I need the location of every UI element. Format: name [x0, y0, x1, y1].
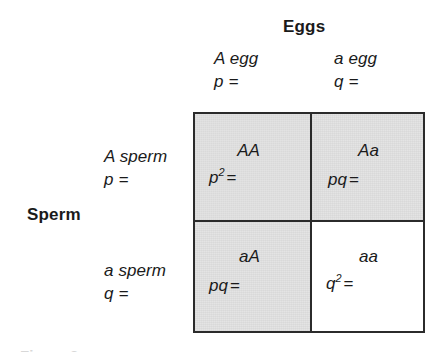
- row-header-gamete-A: A sperm: [104, 148, 167, 165]
- frequency-label-AA: p2=: [209, 166, 237, 188]
- genotype-label-AA: AA: [195, 141, 310, 161]
- punnett-square-grid: AA p2= Aa pq= aA pq= aa q2=: [193, 112, 425, 333]
- eggs-axis-title: Eggs: [283, 18, 325, 35]
- column-header-gamete-a: a egg: [334, 50, 377, 67]
- row-header-gamete-a: a sperm: [104, 262, 166, 279]
- frequency-exponent-AA: 2: [218, 166, 224, 178]
- frequency-base-aA: pq: [209, 276, 228, 295]
- frequency-base-Aa: pq: [328, 170, 347, 189]
- frequency-label-Aa: pq=: [328, 168, 359, 190]
- column-header-frequency-p: p =: [214, 73, 238, 90]
- punnett-cell-aA: aA pq=: [195, 222, 312, 331]
- caption-sliver: Figure 2: [20, 347, 78, 352]
- sperm-axis-title: Sperm: [27, 206, 81, 223]
- column-header-gamete-A: A egg: [214, 50, 258, 67]
- punnett-cell-aa: aa q2=: [312, 222, 423, 331]
- frequency-label-aA: pq=: [209, 274, 240, 296]
- genotype-label-aA: aA: [195, 247, 310, 267]
- punnett-cell-AA: AA p2=: [195, 114, 312, 222]
- punnett-square-figure: Eggs Sperm A egg p = a egg q = A sperm p…: [0, 0, 442, 352]
- row-header-frequency-p: p =: [104, 171, 128, 188]
- frequency-equals-aA: =: [228, 276, 240, 295]
- frequency-exponent-aa: 2: [335, 272, 341, 284]
- punnett-cell-Aa: Aa pq=: [312, 114, 423, 222]
- column-header-frequency-q: q =: [334, 73, 358, 90]
- row-header-frequency-q: q =: [104, 285, 128, 302]
- frequency-equals-Aa: =: [347, 170, 359, 189]
- frequency-label-aa: q2=: [326, 272, 354, 294]
- genotype-label-aa: aa: [314, 247, 423, 267]
- genotype-label-Aa: Aa: [314, 141, 423, 161]
- frequency-equals-aa: =: [342, 274, 354, 293]
- frequency-equals-AA: =: [225, 168, 237, 187]
